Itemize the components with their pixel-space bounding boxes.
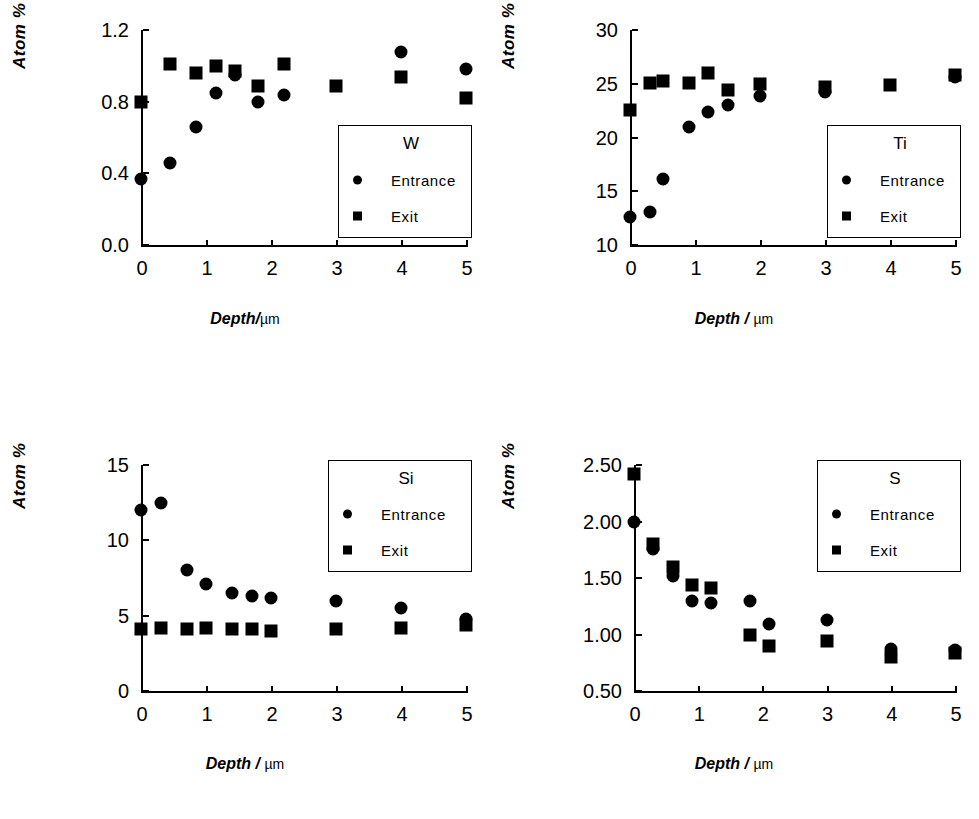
y-axis-tick bbox=[632, 244, 638, 246]
legend-circle-marker-icon bbox=[832, 510, 841, 519]
y-axis-tick bbox=[143, 615, 149, 617]
y-axis-tick-label: 20 bbox=[489, 126, 618, 149]
data-point-entrance bbox=[180, 564, 193, 577]
y-axis-tick bbox=[636, 634, 642, 636]
data-point-entrance bbox=[135, 504, 148, 517]
data-point-exit bbox=[949, 646, 962, 659]
y-axis-tick-label: 10 bbox=[0, 529, 129, 552]
data-point-exit bbox=[135, 623, 148, 636]
legend-square-marker-icon bbox=[353, 212, 362, 221]
x-axis-tick-label: 2 bbox=[755, 257, 766, 280]
data-point-exit bbox=[643, 76, 656, 89]
y-axis-tick bbox=[636, 464, 642, 466]
legend-row-entrance: Entrance bbox=[339, 167, 471, 193]
x-axis-tick-label: 5 bbox=[461, 703, 472, 726]
legend-circle-marker-icon bbox=[343, 510, 352, 519]
x-axis-tick-label: 1 bbox=[694, 703, 705, 726]
data-point-entrance bbox=[278, 88, 291, 101]
y-axis-tick-label: 0.8 bbox=[0, 90, 129, 113]
data-point-exit bbox=[229, 65, 242, 78]
data-point-exit bbox=[154, 621, 167, 634]
y-axis-tick-label: 25 bbox=[489, 72, 618, 95]
data-point-exit bbox=[395, 70, 408, 83]
y-axis-tick-label: 1.50 bbox=[489, 567, 622, 590]
x-axis-tick-label: 4 bbox=[396, 257, 407, 280]
data-point-exit bbox=[164, 58, 177, 71]
legend-row-entrance: Entrance bbox=[828, 167, 960, 193]
y-axis-line bbox=[634, 465, 636, 693]
data-point-exit bbox=[762, 639, 775, 652]
x-axis-tick bbox=[955, 686, 957, 692]
x-axis-tick-label: 5 bbox=[461, 257, 472, 280]
data-point-exit bbox=[819, 80, 832, 93]
x-axis-tick bbox=[695, 240, 697, 246]
x-axis-tick-label: 0 bbox=[136, 703, 147, 726]
data-point-exit bbox=[135, 95, 148, 108]
data-point-entrance bbox=[643, 205, 656, 218]
legend-label-entrance: Entrance bbox=[870, 506, 935, 523]
data-point-entrance bbox=[135, 172, 148, 185]
legend-row-exit: Exit bbox=[818, 537, 960, 563]
legend-title: W bbox=[345, 134, 477, 154]
x-axis-tick-label: 2 bbox=[266, 703, 277, 726]
y-axis-label: Atom % bbox=[499, 369, 519, 509]
data-point-exit bbox=[252, 79, 265, 92]
x-axis-tick-label: 0 bbox=[629, 703, 640, 726]
data-point-entrance bbox=[705, 596, 718, 609]
data-point-exit bbox=[200, 621, 213, 634]
x-axis-tick bbox=[466, 686, 468, 692]
legend-box: SEntranceExit bbox=[817, 460, 961, 572]
legend-square-marker-icon bbox=[842, 212, 851, 221]
legend-label-exit: Exit bbox=[880, 208, 907, 225]
x-axis-tick bbox=[825, 240, 827, 246]
x-axis-tick bbox=[401, 240, 403, 246]
data-point-exit bbox=[721, 84, 734, 97]
y-axis-tick-label: 30 bbox=[489, 19, 618, 42]
data-point-entrance bbox=[395, 45, 408, 58]
data-point-entrance bbox=[743, 594, 756, 607]
four-panel-depth-profile-figure: Atom %Depth/µm0.00.40.81.2012345WEntranc… bbox=[0, 0, 979, 819]
x-axis-tick-label: 1 bbox=[201, 257, 212, 280]
data-point-entrance bbox=[245, 590, 258, 603]
chart-panel-w: Atom %Depth/µm0.00.40.81.2012345WEntranc… bbox=[0, 0, 490, 405]
y-axis-tick-label: 1.2 bbox=[0, 19, 129, 42]
data-point-entrance bbox=[226, 587, 239, 600]
data-point-exit bbox=[278, 58, 291, 71]
x-axis-tick bbox=[634, 686, 636, 692]
data-point-exit bbox=[624, 103, 637, 116]
legend-label-entrance: Entrance bbox=[391, 172, 456, 189]
x-axis-tick-label: 1 bbox=[690, 257, 701, 280]
data-point-entrance bbox=[754, 89, 767, 102]
data-point-entrance bbox=[656, 173, 669, 186]
y-axis-tick bbox=[636, 690, 642, 692]
legend-row-exit: Exit bbox=[329, 537, 471, 563]
data-point-entrance bbox=[820, 613, 833, 626]
x-axis-tick bbox=[271, 240, 273, 246]
data-point-exit bbox=[705, 582, 718, 595]
data-point-entrance bbox=[702, 105, 715, 118]
data-point-exit bbox=[265, 624, 278, 637]
y-axis-tick bbox=[632, 190, 638, 192]
data-point-entrance bbox=[330, 594, 343, 607]
data-point-exit bbox=[754, 77, 767, 90]
legend-square-marker-icon bbox=[832, 546, 841, 555]
data-point-exit bbox=[209, 59, 222, 72]
data-point-entrance bbox=[154, 496, 167, 509]
x-axis-tick bbox=[698, 686, 700, 692]
x-axis-tick-label: 3 bbox=[331, 257, 342, 280]
x-axis-label: Depth / µm bbox=[0, 755, 490, 773]
data-point-entrance bbox=[209, 86, 222, 99]
data-point-exit bbox=[884, 78, 897, 91]
data-point-entrance bbox=[762, 618, 775, 631]
y-axis-tick bbox=[143, 539, 149, 541]
chart-panel-si: Atom %Depth / µm051015012345SiEntranceEx… bbox=[0, 425, 490, 819]
x-axis-tick-label: 0 bbox=[625, 257, 636, 280]
y-axis-tick-label: 15 bbox=[489, 180, 618, 203]
legend-row-entrance: Entrance bbox=[818, 501, 960, 527]
y-axis-tick bbox=[143, 29, 149, 31]
x-axis-tick-label: 2 bbox=[758, 703, 769, 726]
legend-box: WEntranceExit bbox=[338, 125, 472, 238]
data-point-exit bbox=[884, 651, 897, 664]
data-point-entrance bbox=[628, 515, 641, 528]
y-axis-tick bbox=[632, 29, 638, 31]
